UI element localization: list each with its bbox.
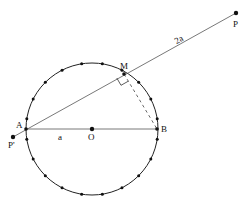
label-segment-2a: 2a: [173, 33, 185, 46]
circle-dot: [137, 174, 140, 177]
circle-dot: [101, 193, 104, 196]
circle-dot: [156, 138, 159, 141]
circle-dot: [44, 81, 47, 84]
circle-dot: [137, 81, 140, 84]
label-b: B: [161, 124, 167, 134]
point-m: [122, 72, 126, 76]
circle-dot: [149, 98, 152, 101]
circle-dot: [61, 186, 64, 189]
label-p: P: [233, 19, 238, 29]
circle-dot: [80, 62, 83, 65]
label-m: M: [120, 61, 128, 71]
circle-dot: [120, 186, 123, 189]
right-angle-marker: [117, 78, 129, 85]
label-segment-a: a: [58, 132, 62, 142]
circle-dot: [61, 69, 64, 72]
circle-dot: [32, 98, 35, 101]
circle-dot: [44, 174, 47, 177]
label-p-prime: P': [8, 140, 15, 150]
label-a: A: [16, 120, 23, 130]
circle-dot: [25, 138, 28, 141]
circle-dot: [80, 193, 83, 196]
label-o: O: [88, 132, 95, 142]
point-b: [155, 127, 159, 131]
circle-dot: [25, 117, 28, 120]
point-p: [234, 11, 238, 15]
point-a: [24, 127, 28, 131]
circle-dot: [156, 117, 159, 120]
point-p-prime: [11, 135, 15, 139]
circle-dot: [149, 157, 152, 160]
point-o: [90, 127, 94, 131]
geometry-diagram: P M A B O P' a 2a: [0, 0, 249, 200]
circle-dot: [32, 157, 35, 160]
circle-dot: [101, 62, 104, 65]
